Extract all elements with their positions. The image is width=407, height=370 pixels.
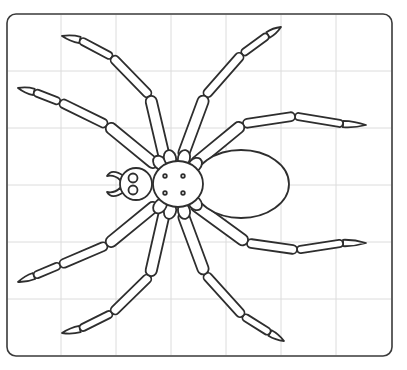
spider-eye-lower: [129, 186, 138, 195]
thorax-dot: [163, 174, 167, 178]
leg-tip: [18, 87, 35, 95]
leg-tip: [62, 326, 81, 334]
leg-tip: [18, 273, 35, 282]
leg-segment-tibia: [202, 51, 246, 99]
leg-segment-tibia: [242, 112, 295, 129]
leg-tip: [343, 121, 366, 128]
spider-eye-upper: [129, 174, 138, 183]
spider-cephalothorax: [153, 161, 203, 207]
spider-body: [107, 149, 289, 221]
leg-segment-tarsus: [241, 313, 272, 336]
thorax-dot: [181, 174, 185, 178]
leg-segment-tarsus: [33, 262, 62, 280]
spider-abdomen: [193, 150, 289, 218]
leg-segment-tibia: [109, 54, 153, 99]
leg-segment-tarsus: [78, 310, 113, 332]
thorax-dot: [163, 191, 167, 195]
spider-leg: [18, 200, 161, 282]
spider-leg: [18, 87, 161, 170]
leg-segment-tarsus: [78, 37, 113, 60]
leg-segment-tibia: [58, 241, 108, 269]
leg-tip: [343, 240, 366, 246]
leg-segment-tarsus: [240, 32, 270, 57]
leg-tip: [62, 35, 81, 43]
leg-segment-tibia: [246, 239, 297, 255]
spider-drawing-canvas: [0, 0, 407, 370]
spider-head: [120, 168, 152, 200]
leg-segment-tibia: [58, 98, 109, 129]
thorax-dot: [181, 191, 185, 195]
leg-segment-tarsus: [33, 89, 62, 106]
leg-segment-tibia: [202, 271, 247, 319]
